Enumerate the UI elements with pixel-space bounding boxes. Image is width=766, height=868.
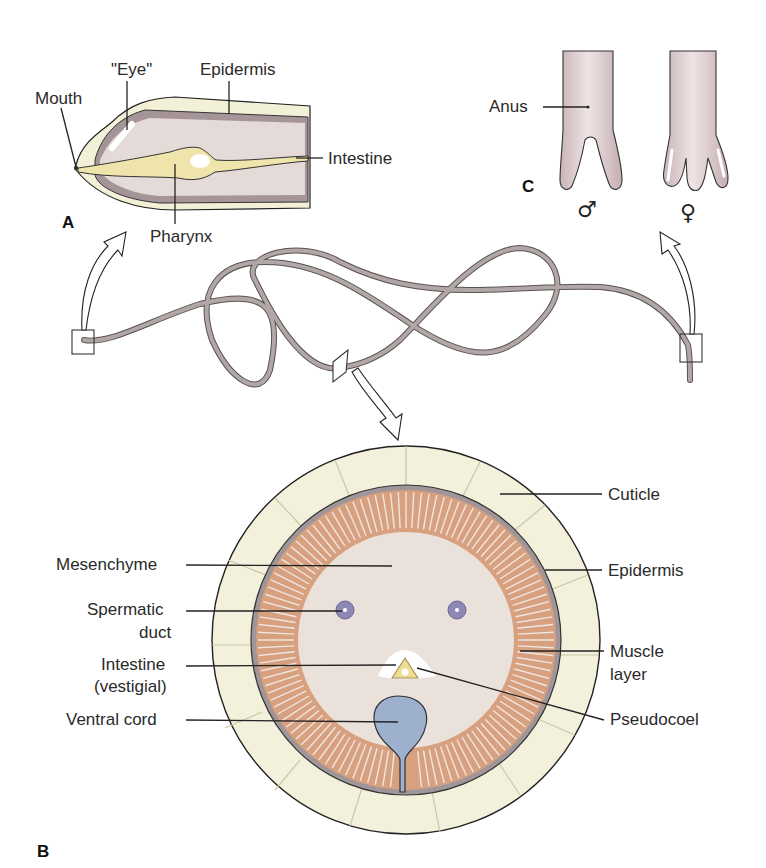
label-muscle-2: layer: [610, 665, 647, 684]
label-spermatic-duct-1: Spermatic: [87, 600, 164, 619]
label-intestine-a: Intestine: [328, 149, 392, 168]
label-anus: Anus: [489, 97, 528, 116]
label-intestine-b-1: Intestine: [101, 655, 165, 674]
panel-a-anterior-end: [74, 97, 310, 210]
label-mesenchyme: Mesenchyme: [56, 555, 157, 574]
label-epidermis-b: Epidermis: [608, 561, 684, 580]
label-mouth: Mouth: [35, 89, 82, 108]
label-spermatic-duct-2: duct: [139, 623, 171, 642]
arrow-to-panel-b: [352, 368, 402, 440]
pointer-arrows: [82, 232, 695, 440]
male-symbol: ♂: [577, 197, 597, 222]
label-epidermis-a: Epidermis: [200, 60, 276, 79]
female-tail: [663, 51, 728, 191]
arrow-to-panel-c: [660, 232, 695, 334]
section-marker: [333, 350, 348, 382]
female-symbol: ♀: [680, 200, 696, 225]
whole-worm: [72, 248, 702, 384]
arrow-to-panel-a: [82, 232, 126, 330]
label-cuticle: Cuticle: [608, 485, 660, 504]
label-eye: "Eye": [111, 60, 152, 79]
panel-b-cross-section: [212, 446, 600, 834]
panel-c-posterior-ends: [560, 51, 728, 191]
label-pseudocoel: Pseudocoel: [610, 710, 699, 729]
label-pharynx: Pharynx: [150, 227, 213, 246]
label-intestine-b-2: (vestigial): [94, 677, 167, 696]
label-ventral-cord: Ventral cord: [66, 710, 157, 729]
panel-label-a: A: [62, 213, 74, 232]
panel-label-c: C: [522, 177, 534, 196]
male-tail: [560, 51, 622, 189]
label-muscle-1: Muscle: [610, 642, 664, 661]
panel-label-b: B: [37, 842, 49, 861]
nematomorph-diagram: Mouth "Eye" Epidermis Intestine Pharynx …: [0, 0, 766, 868]
